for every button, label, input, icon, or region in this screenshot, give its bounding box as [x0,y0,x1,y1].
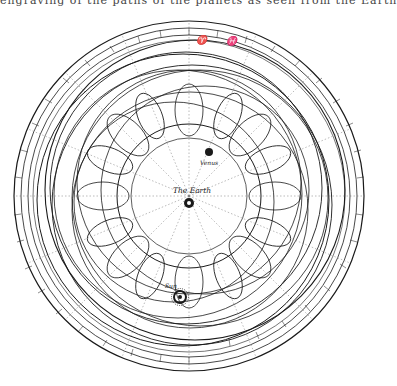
sun-marker [172,289,189,306]
venus-label: Venus [200,159,218,166]
venus-marker [205,148,213,156]
zodiac-pisces: ♓ [226,35,239,46]
earth-label: The Earth [173,186,211,195]
sun-label: Sun [165,282,177,289]
earth-marker [184,198,194,208]
